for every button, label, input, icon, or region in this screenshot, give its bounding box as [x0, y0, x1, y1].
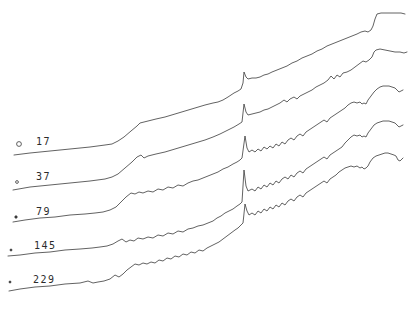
curve-label-229: 229 [33, 274, 56, 285]
curve-label-17: 17 [36, 136, 51, 147]
line-chart: 173779145229 [0, 0, 416, 309]
curve-label-79: 79 [36, 206, 51, 217]
curve-marker-229-icon [9, 281, 11, 283]
curve-label-145: 145 [34, 240, 57, 251]
curve-label-37: 37 [36, 171, 51, 182]
curve-79 [13, 86, 403, 222]
figure-canvas: 173779145229 [0, 0, 416, 309]
curve-marker-37-icon [16, 181, 19, 184]
curve-marker-145-icon [10, 249, 12, 251]
curve-145 [8, 121, 403, 256]
curve-229 [9, 153, 403, 291]
curve-marker-79-icon [15, 216, 17, 218]
curve-marker-17-icon [17, 142, 22, 147]
curve-17 [14, 13, 405, 155]
curve-37 [13, 49, 407, 190]
